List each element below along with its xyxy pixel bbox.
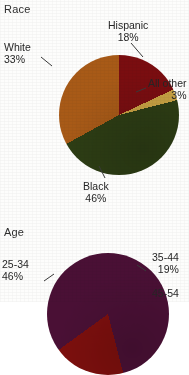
age-label-25-34-pct: 46% bbox=[2, 271, 29, 283]
race-label-hispanic: Hispanic 18% bbox=[108, 20, 148, 43]
age-pie-shading bbox=[47, 253, 169, 375]
race-label-hispanic-name: Hispanic bbox=[108, 19, 148, 31]
race-label-black-name: Black bbox=[83, 180, 109, 192]
age-label-35-44-pct: 19% bbox=[152, 264, 179, 276]
race-label-white-name: White bbox=[4, 41, 31, 53]
race-label-all-other-name: All other bbox=[148, 77, 187, 89]
race-label-all-other: All other 3% bbox=[148, 78, 187, 101]
age-pie-chart bbox=[47, 253, 169, 375]
race-label-hispanic-pct: 18% bbox=[108, 32, 148, 44]
race-label-black-pct: 46% bbox=[83, 193, 109, 205]
race-label-white: White 33% bbox=[4, 42, 31, 65]
race-pie-slices bbox=[59, 55, 179, 175]
race-label-white-pct: 33% bbox=[4, 54, 31, 66]
age-label-25-34: 25-34 46% bbox=[2, 259, 29, 282]
race-pie-shading bbox=[59, 55, 179, 175]
race-label-black: Black 46% bbox=[83, 181, 109, 204]
race-pie-chart bbox=[59, 55, 179, 175]
age-label-35-44-name: 35-44 bbox=[152, 251, 179, 263]
age-label-25-34-name: 25-34 bbox=[2, 258, 29, 270]
race-chart-title: Race bbox=[4, 3, 30, 15]
age-pie-slices bbox=[47, 253, 169, 375]
age-label-35-44: 35-44 19% bbox=[152, 252, 179, 275]
age-chart-title: Age bbox=[4, 226, 24, 238]
age-label-45-54-name: 45-54 bbox=[152, 287, 179, 299]
race-label-all-other-pct: 3% bbox=[148, 90, 187, 102]
age-label-45-54: 45-54 bbox=[152, 288, 179, 300]
